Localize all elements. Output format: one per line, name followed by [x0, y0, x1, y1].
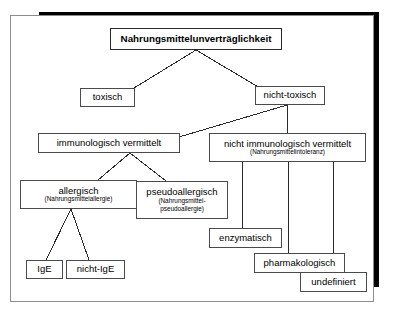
- node-pseudoallergisch-subtitle-line2: pseudoallergie): [160, 206, 204, 213]
- node-undefiniert-label: undefiniert: [311, 277, 355, 287]
- node-immunologisch-vermittelt[interactable]: immunologisch vermittelt: [38, 133, 180, 153]
- node-toxisch[interactable]: toxisch: [80, 88, 135, 107]
- node-nicht-toxisch-label: nicht-toxisch: [264, 90, 317, 100]
- node-pharmakologisch[interactable]: pharmakologisch: [254, 253, 345, 273]
- node-nicht-immunologisch-vermittelt-label: nicht immunologisch vermittelt: [224, 139, 351, 149]
- node-root[interactable]: Nahrungsmittelunverträglichkeit: [110, 28, 282, 50]
- node-pseudoallergisch-label: pseudoallergisch: [146, 187, 217, 197]
- node-ige[interactable]: IgE: [26, 260, 63, 279]
- node-undefiniert[interactable]: undefiniert: [300, 272, 367, 292]
- node-nicht-immunologisch-vermittelt[interactable]: nicht immunologisch vermittelt (Nahrungs…: [209, 133, 366, 162]
- node-nicht-toxisch[interactable]: nicht-toxisch: [255, 86, 325, 105]
- node-pseudoallergisch[interactable]: pseudoallergisch (Nahrungsmittel- pseudo…: [136, 181, 228, 219]
- node-enzymatisch-label: enzymatisch: [219, 233, 272, 243]
- node-allergisch-subtitle: (Nahrungsmittelallergie): [45, 196, 113, 203]
- node-nicht-ige-label: nicht-IgE: [77, 264, 115, 274]
- node-enzymatisch[interactable]: enzymatisch: [209, 228, 282, 248]
- node-pharmakologisch-label: pharmakologisch: [264, 258, 336, 268]
- node-toxisch-label: toxisch: [93, 92, 123, 102]
- node-allergisch[interactable]: allergisch (Nahrungsmittelallergie): [20, 180, 137, 209]
- figure-canvas: Nahrungsmittelunverträglichkeit toxisch …: [0, 0, 397, 317]
- node-immunologisch-vermittelt-label: immunologisch vermittelt: [57, 138, 162, 148]
- node-nicht-immunologisch-vermittelt-subtitle: (Nahrungsmittelintoleranz): [250, 149, 325, 156]
- node-nicht-ige[interactable]: nicht-IgE: [66, 260, 125, 279]
- node-root-label: Nahrungsmittelunverträglichkeit: [121, 34, 272, 45]
- node-ige-label: IgE: [37, 264, 51, 274]
- diagram-container: Nahrungsmittelunverträglichkeit toxisch …: [0, 0, 397, 317]
- node-allergisch-label: allergisch: [58, 186, 98, 196]
